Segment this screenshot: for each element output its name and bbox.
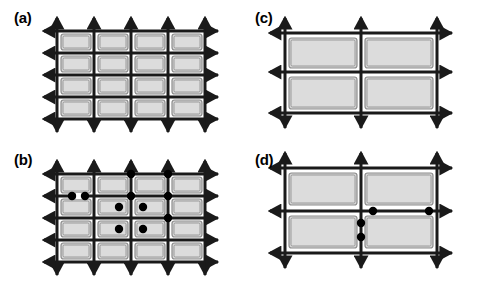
cell-rect-inner bbox=[174, 58, 200, 70]
panel-b bbox=[0, 143, 241, 286]
panel-label-b: (b) bbox=[14, 152, 32, 167]
node-dot bbox=[164, 214, 172, 222]
cell-rect-inner bbox=[174, 80, 200, 92]
panel-a-graphic bbox=[0, 0, 241, 143]
panel-label-a: (a) bbox=[14, 10, 31, 25]
node-dot bbox=[127, 170, 135, 178]
cell-rect-inner bbox=[63, 58, 89, 70]
cell-rect-inner bbox=[174, 179, 200, 191]
panel-d-graphic bbox=[241, 143, 482, 286]
cell-rect-inner bbox=[100, 58, 126, 70]
cell-rect-inner bbox=[291, 79, 355, 107]
cell-rect-inner bbox=[137, 80, 163, 92]
cell-rect-inner bbox=[291, 218, 355, 246]
panel-b-graphic bbox=[0, 143, 241, 286]
cell-rect-inner bbox=[174, 102, 200, 114]
panel-c-graphic bbox=[241, 0, 482, 143]
node-dot bbox=[425, 207, 433, 215]
cell-rect-inner bbox=[174, 201, 200, 213]
node-dot bbox=[139, 225, 147, 233]
node-dot bbox=[115, 203, 123, 211]
cell-rect-inner bbox=[137, 179, 163, 191]
cell-rect-inner bbox=[291, 40, 355, 66]
cell-rect-inner bbox=[100, 179, 126, 191]
cell-rect-inner bbox=[100, 245, 126, 257]
cell-rect-inner bbox=[100, 36, 126, 48]
node-dot bbox=[139, 203, 147, 211]
cell-rect-inner bbox=[63, 223, 89, 235]
node-dot bbox=[81, 192, 89, 200]
node-dot bbox=[115, 225, 123, 233]
cell-rect-inner bbox=[367, 218, 431, 246]
node-dot bbox=[357, 233, 365, 241]
panel-label-d: (d) bbox=[255, 152, 273, 167]
cell-rect-inner bbox=[63, 80, 89, 92]
cell-rect-inner bbox=[174, 36, 200, 48]
cell-rect-inner bbox=[137, 58, 163, 70]
panel-c bbox=[241, 0, 482, 143]
cell-rect-inner bbox=[291, 175, 355, 203]
figure-canvas: (a)(b)(c)(d) bbox=[0, 0, 482, 286]
panel-label-c: (c) bbox=[255, 10, 272, 25]
cell-rect-inner bbox=[63, 201, 89, 213]
cell-rect-inner bbox=[137, 102, 163, 114]
node-dot bbox=[127, 192, 135, 200]
node-dot bbox=[369, 207, 377, 215]
node-dot bbox=[164, 192, 172, 200]
cell-rect-inner bbox=[174, 245, 200, 257]
cell-rect-inner bbox=[63, 102, 89, 114]
panel-a bbox=[0, 0, 241, 143]
node-dot bbox=[164, 170, 172, 178]
cell-rect-inner bbox=[367, 175, 431, 203]
node-dot bbox=[357, 219, 365, 227]
cell-rect-inner bbox=[63, 245, 89, 257]
cell-rect-inner bbox=[63, 36, 89, 48]
node-dot bbox=[68, 192, 76, 200]
cell-rect-inner bbox=[137, 36, 163, 48]
cell-rect-inner bbox=[100, 80, 126, 92]
arrow-lines bbox=[270, 153, 452, 268]
cell-rect-inner bbox=[63, 179, 89, 191]
cell-rect-inner bbox=[367, 79, 431, 107]
arrow-lines bbox=[270, 18, 452, 128]
panel-d bbox=[241, 143, 482, 286]
cell-rect-inner bbox=[174, 223, 200, 235]
cell-rect-inner bbox=[137, 245, 163, 257]
cell-rect-inner bbox=[367, 40, 431, 66]
cell-rect-inner bbox=[100, 102, 126, 114]
